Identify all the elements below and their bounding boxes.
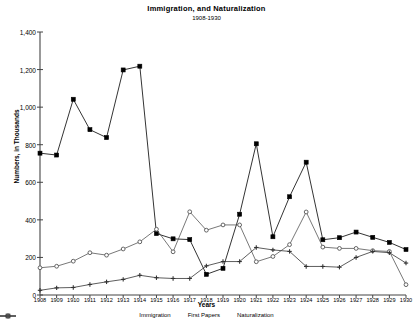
legend-label: Immigration	[139, 312, 170, 318]
chart-container: Immigration, and Naturalization 1908-193…	[0, 0, 413, 330]
series-immigration	[38, 64, 408, 276]
chart-legend: ImmigrationFirst PapersNaturalization	[0, 312, 413, 318]
series-first-papers	[38, 210, 408, 287]
legend-marker-plus-icon	[0, 312, 16, 320]
legend-label: First Papers	[188, 312, 220, 318]
legend-item-immigration[interactable]: Immigration	[139, 312, 170, 318]
legend-item-naturalization[interactable]: Naturalization	[237, 312, 274, 318]
legend-label: Naturalization	[237, 312, 274, 318]
plot-area	[0, 0, 413, 330]
legend-item-first-papers[interactable]: First Papers	[188, 312, 220, 318]
